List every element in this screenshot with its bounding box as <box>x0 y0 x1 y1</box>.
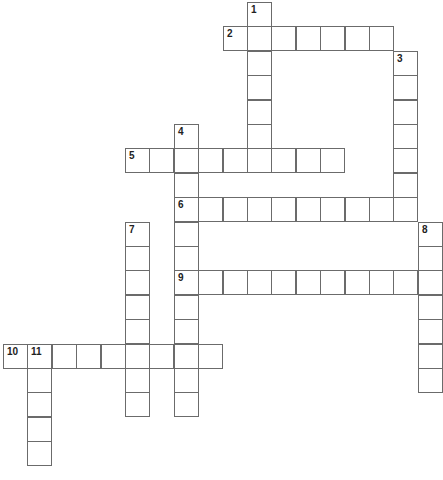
cell-letter-input[interactable] <box>224 149 247 172</box>
cell-letter-input[interactable] <box>419 271 442 294</box>
crossword-cell[interactable] <box>296 270 321 295</box>
crossword-cell[interactable] <box>296 26 321 51</box>
cell-letter-input[interactable] <box>419 223 442 246</box>
cell-letter-input[interactable] <box>248 271 271 294</box>
crossword-cell[interactable] <box>393 75 418 100</box>
cell-letter-input[interactable] <box>248 125 271 148</box>
cell-letter-input[interactable] <box>272 271 295 294</box>
crossword-cell[interactable] <box>369 270 394 295</box>
cell-letter-input[interactable] <box>175 345 198 368</box>
cell-letter-input[interactable] <box>224 271 247 294</box>
cell-letter-input[interactable] <box>175 149 198 172</box>
crossword-cell[interactable] <box>174 295 199 320</box>
crossword-cell[interactable] <box>125 270 150 295</box>
cell-letter-input[interactable] <box>394 198 417 221</box>
cell-letter-input[interactable] <box>321 271 344 294</box>
crossword-cell[interactable] <box>271 270 296 295</box>
cell-letter-input[interactable] <box>175 296 198 319</box>
crossword-cell[interactable] <box>418 295 443 320</box>
cell-letter-input[interactable] <box>77 345 100 368</box>
crossword-cell[interactable] <box>27 368 52 393</box>
cell-letter-input[interactable] <box>175 198 198 221</box>
crossword-cell[interactable] <box>174 392 199 417</box>
crossword-cell[interactable] <box>149 148 174 173</box>
crossword-cell[interactable] <box>418 246 443 271</box>
cell-letter-input[interactable] <box>28 418 51 441</box>
crossword-cell[interactable] <box>125 392 150 417</box>
cell-letter-input[interactable] <box>248 149 271 172</box>
crossword-cell[interactable] <box>271 148 296 173</box>
cell-letter-input[interactable] <box>199 345 222 368</box>
crossword-cell[interactable]: 1 <box>247 2 272 27</box>
cell-letter-input[interactable] <box>28 442 51 465</box>
cell-letter-input[interactable] <box>150 149 173 172</box>
cell-letter-input[interactable] <box>394 174 417 197</box>
crossword-cell[interactable] <box>27 417 52 442</box>
crossword-cell[interactable]: 9 <box>174 270 199 295</box>
crossword-cell[interactable] <box>296 197 321 222</box>
cell-letter-input[interactable] <box>272 198 295 221</box>
cell-letter-input[interactable] <box>346 198 369 221</box>
crossword-cell[interactable] <box>198 148 223 173</box>
crossword-cell[interactable] <box>52 344 77 369</box>
cell-letter-input[interactable] <box>150 345 173 368</box>
crossword-cell[interactable] <box>418 368 443 393</box>
cell-letter-input[interactable] <box>175 369 198 392</box>
crossword-cell[interactable] <box>125 295 150 320</box>
crossword-cell[interactable]: 6 <box>174 197 199 222</box>
crossword-cell[interactable] <box>76 344 101 369</box>
cell-letter-input[interactable] <box>126 393 149 416</box>
crossword-cell[interactable] <box>174 319 199 344</box>
crossword-cell[interactable] <box>418 319 443 344</box>
cell-letter-input[interactable] <box>394 101 417 124</box>
cell-letter-input[interactable] <box>126 320 149 343</box>
cell-letter-input[interactable] <box>394 125 417 148</box>
cell-letter-input[interactable] <box>126 149 149 172</box>
crossword-cell[interactable] <box>247 124 272 149</box>
cell-letter-input[interactable] <box>4 345 27 368</box>
crossword-cell[interactable]: 10 <box>3 344 28 369</box>
cell-letter-input[interactable] <box>370 271 393 294</box>
cell-letter-input[interactable] <box>419 369 442 392</box>
cell-letter-input[interactable] <box>199 271 222 294</box>
crossword-cell[interactable] <box>198 197 223 222</box>
crossword-cell[interactable] <box>345 26 370 51</box>
cell-letter-input[interactable] <box>199 149 222 172</box>
cell-letter-input[interactable] <box>28 369 51 392</box>
crossword-cell[interactable] <box>174 222 199 247</box>
cell-letter-input[interactable] <box>102 345 125 368</box>
crossword-cell[interactable] <box>345 270 370 295</box>
cell-letter-input[interactable] <box>175 320 198 343</box>
crossword-cell[interactable] <box>247 51 272 76</box>
cell-letter-input[interactable] <box>248 27 271 50</box>
cell-letter-input[interactable] <box>394 76 417 99</box>
cell-letter-input[interactable] <box>321 27 344 50</box>
crossword-cell[interactable] <box>247 197 272 222</box>
cell-letter-input[interactable] <box>370 27 393 50</box>
crossword-cell[interactable] <box>223 270 248 295</box>
cell-letter-input[interactable] <box>297 149 320 172</box>
cell-letter-input[interactable] <box>126 296 149 319</box>
crossword-cell[interactable] <box>345 197 370 222</box>
crossword-cell[interactable] <box>320 197 345 222</box>
crossword-cell[interactable]: 8 <box>418 222 443 247</box>
crossword-cell[interactable] <box>125 246 150 271</box>
crossword-cell[interactable] <box>320 270 345 295</box>
crossword-cell[interactable] <box>174 246 199 271</box>
crossword-cell[interactable] <box>418 270 443 295</box>
cell-letter-input[interactable] <box>199 198 222 221</box>
cell-letter-input[interactable] <box>53 345 76 368</box>
cell-letter-input[interactable] <box>419 296 442 319</box>
cell-letter-input[interactable] <box>346 27 369 50</box>
crossword-cell[interactable] <box>198 270 223 295</box>
crossword-cell[interactable] <box>247 270 272 295</box>
cell-letter-input[interactable] <box>272 149 295 172</box>
crossword-cell[interactable] <box>27 441 52 466</box>
cell-letter-input[interactable] <box>419 345 442 368</box>
crossword-cell[interactable] <box>223 148 248 173</box>
cell-letter-input[interactable] <box>394 149 417 172</box>
cell-letter-input[interactable] <box>370 198 393 221</box>
crossword-cell[interactable] <box>320 148 345 173</box>
crossword-cell[interactable] <box>393 148 418 173</box>
crossword-cell[interactable] <box>247 100 272 125</box>
